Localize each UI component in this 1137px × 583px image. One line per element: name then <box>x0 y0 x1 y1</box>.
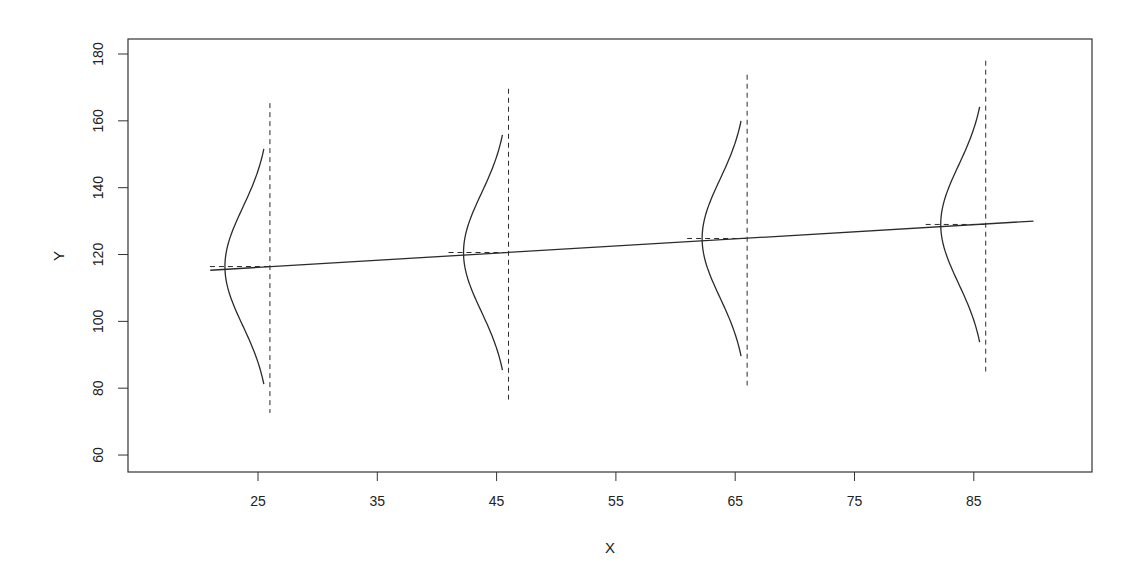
chart-canvas: 25354555657585 6080100120140160180 X Y <box>0 0 1137 583</box>
y-tick-label: 180 <box>90 42 106 66</box>
x-tick-label: 25 <box>250 493 266 509</box>
plot-area <box>210 61 1034 413</box>
regression-line <box>210 221 1033 270</box>
x-tick-label: 35 <box>370 493 386 509</box>
y-axis-title: Y <box>50 251 67 261</box>
x-tick-label: 85 <box>966 493 982 509</box>
y-tick-label: 80 <box>90 380 106 396</box>
y-tick-label: 160 <box>90 109 106 133</box>
x-axis-title: X <box>605 539 615 556</box>
y-tick-label: 100 <box>90 309 106 333</box>
conditional-distribution <box>687 75 747 386</box>
x-tick-label: 45 <box>489 493 505 509</box>
plot-frame <box>128 39 1092 472</box>
conditional-distribution <box>210 103 270 413</box>
x-tick-label: 55 <box>608 493 624 509</box>
conditional-distribution <box>926 61 986 372</box>
y-tick-label: 140 <box>90 176 106 200</box>
x-axis: 25354555657585 <box>250 472 982 509</box>
x-tick-label: 75 <box>847 493 863 509</box>
x-tick-label: 65 <box>727 493 743 509</box>
y-tick-label: 60 <box>90 447 106 463</box>
y-axis: 6080100120140160180 <box>90 42 128 463</box>
y-tick-label: 120 <box>90 243 106 267</box>
conditional-distribution <box>449 89 509 400</box>
